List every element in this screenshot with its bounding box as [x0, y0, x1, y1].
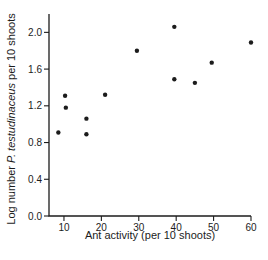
y-axis-label-suffix: per 10 shoots — [5, 13, 17, 83]
y-tick-label: 2.0 — [28, 27, 42, 38]
plot-canvas: 1020304050600.00.40.81.21.62.0 — [0, 0, 268, 260]
y-tick-label: 0.8 — [28, 137, 42, 148]
y-axis-label-species: P. testudinaceus — [5, 83, 17, 163]
y-axis-label-prefix: Log number — [5, 163, 17, 225]
data-point — [135, 49, 139, 53]
data-point — [103, 93, 107, 97]
scatter-plot-figure: 1020304050600.00.40.81.21.62.0 Log numbe… — [0, 0, 268, 260]
y-tick-label: 1.6 — [28, 64, 42, 75]
data-point — [56, 130, 60, 134]
axis-lines — [49, 14, 251, 216]
y-tick-label: 0.0 — [28, 211, 42, 222]
y-tick-label: 0.4 — [28, 174, 42, 185]
data-point — [249, 40, 253, 44]
data-point — [193, 81, 197, 85]
data-point — [172, 77, 176, 81]
data-point — [84, 116, 88, 120]
x-axis-label: Ant activity (per 10 shoots) — [49, 229, 251, 241]
y-axis-label: Log number P. testudinaceus per 10 shoot… — [4, 4, 18, 234]
y-tick-label: 1.2 — [28, 100, 42, 111]
data-point — [63, 94, 67, 98]
data-point — [64, 105, 68, 109]
data-point — [172, 25, 176, 29]
data-point — [210, 60, 214, 64]
data-point — [84, 132, 88, 136]
